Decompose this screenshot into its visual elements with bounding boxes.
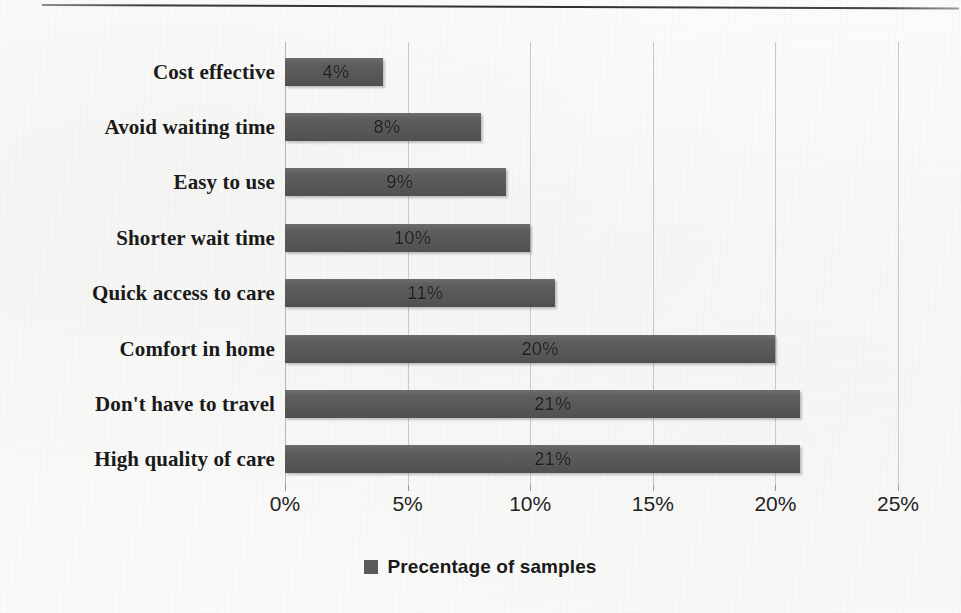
bar-row[interactable]: 8%: [285, 113, 898, 141]
bar-value-label: 10%: [394, 227, 431, 248]
axis-tick-mark: [530, 485, 531, 491]
plot-area: 4%8%9%10%11%20%21%21%: [285, 42, 898, 485]
bar-row[interactable]: 20%: [285, 335, 898, 363]
axis-tick-mark: [408, 485, 409, 491]
gridline: [408, 42, 409, 485]
gridline: [653, 42, 654, 485]
axis-tick-mark: [285, 485, 286, 491]
gridline: [775, 42, 776, 485]
bar-row[interactable]: 10%: [285, 224, 898, 252]
gridline: [530, 42, 531, 485]
bar-row[interactable]: 21%: [285, 445, 898, 473]
axis-tick-label: 5%: [392, 492, 422, 516]
axis-tick-mark: [775, 485, 776, 491]
axis-tick-mark: [898, 485, 899, 491]
scanned-page: 4%8%9%10%11%20%21%21% Cost effectiveAvoi…: [0, 0, 961, 613]
bar-row[interactable]: 9%: [285, 168, 898, 196]
axis-tick-label: 25%: [877, 492, 919, 516]
bar-chart: 4%8%9%10%11%20%21%21% Cost effectiveAvoi…: [0, 0, 961, 613]
bar-value-label: 8%: [374, 117, 401, 138]
bar-value-label: 20%: [521, 338, 558, 359]
legend-label: Precentage of samples: [387, 556, 596, 578]
bar-value-label: 4%: [323, 61, 350, 82]
category-label: Shorter wait time: [116, 225, 275, 250]
category-label: Avoid waiting time: [104, 115, 275, 140]
chart-legend: Precentage of samples: [0, 556, 961, 578]
category-label: Quick access to care: [92, 281, 275, 306]
category-label: Easy to use: [174, 170, 275, 195]
category-label: Comfort in home: [120, 336, 275, 361]
bar-value-label: 21%: [534, 393, 571, 414]
value-axis-line: [285, 42, 286, 485]
gridline: [898, 42, 899, 485]
bar-row[interactable]: 11%: [285, 279, 898, 307]
axis-tick-label: 15%: [632, 492, 674, 516]
axis-tick-label: 20%: [754, 492, 796, 516]
axis-tick-label: 0%: [270, 492, 300, 516]
bar-value-label: 9%: [386, 172, 413, 193]
bar-value-label: 11%: [407, 283, 443, 304]
category-label: Cost effective: [153, 59, 275, 84]
legend-swatch-icon: [364, 560, 378, 574]
category-label: Don't have to travel: [95, 391, 275, 416]
bar-row[interactable]: 4%: [285, 58, 898, 86]
bar-row[interactable]: 21%: [285, 390, 898, 418]
bar-value-label: 21%: [534, 449, 571, 470]
category-label: High quality of care: [94, 447, 275, 472]
axis-tick-mark: [653, 485, 654, 491]
axis-tick-label: 10%: [509, 492, 551, 516]
